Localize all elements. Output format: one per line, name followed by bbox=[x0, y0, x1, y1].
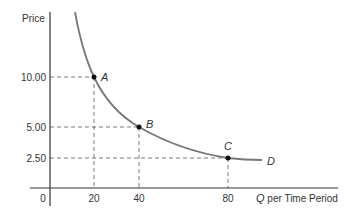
point-a-label: A bbox=[100, 71, 108, 83]
point-c-label: C bbox=[224, 140, 232, 152]
point-a-marker bbox=[92, 75, 97, 80]
demand-curve-chart: A B C D Price 10.00 5.00 2.50 0 20 40 80… bbox=[0, 0, 356, 216]
curve-d-label: D bbox=[267, 155, 275, 167]
guide-lines bbox=[50, 77, 228, 188]
x-tick-20: 20 bbox=[88, 193, 100, 204]
x-tick-0: 0 bbox=[40, 193, 46, 204]
y-tick-2-5: 2.50 bbox=[27, 153, 47, 164]
point-b-marker bbox=[137, 125, 142, 130]
x-tick-80: 80 bbox=[222, 193, 234, 204]
x-axis-label: Q per Time Period bbox=[256, 192, 338, 204]
x-axis-label-suffix: per Time Period bbox=[265, 193, 338, 204]
point-b-label: B bbox=[146, 118, 153, 130]
demand-curve bbox=[75, 12, 262, 160]
x-tick-40: 40 bbox=[133, 193, 145, 204]
y-axis-label: Price bbox=[22, 13, 45, 24]
point-c-marker bbox=[226, 156, 231, 161]
y-tick-5: 5.00 bbox=[27, 122, 47, 133]
y-tick-10: 10.00 bbox=[21, 72, 46, 83]
